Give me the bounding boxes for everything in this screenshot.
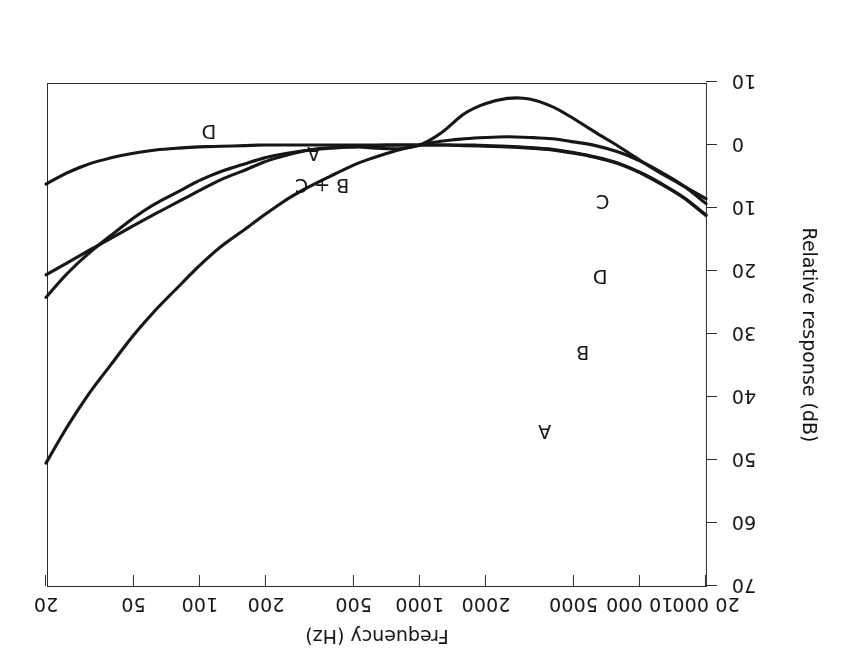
x-axis-title: Frequency (Hz)	[305, 626, 448, 648]
x-tick-label-100: 100	[181, 594, 218, 616]
x-tick-label-20000: 20 000	[672, 594, 740, 616]
curve-annotation-b-plus-c-4: B + C	[295, 175, 349, 197]
y-tick-label-40: 40	[732, 386, 756, 408]
x-tick-label-500: 500	[335, 594, 372, 616]
y-tick-label-0: 0	[732, 134, 744, 156]
curve-annotation-d-6: D	[202, 121, 217, 143]
y-tick--10	[706, 81, 717, 82]
y-tick-60	[706, 522, 717, 523]
x-tick-label-2000: 2000	[461, 594, 510, 616]
y-tick-50	[706, 459, 717, 460]
curve-annotation-b-1: B	[576, 342, 589, 364]
x-tick-label-20: 20	[34, 594, 59, 616]
y-tick-40	[706, 396, 717, 397]
y-tick-label-50: 50	[732, 449, 756, 471]
y-tick-label-30: 30	[732, 323, 756, 345]
x-tick-label-200: 200	[248, 594, 285, 616]
y-tick-0	[706, 144, 717, 145]
x-tick-label-50: 50	[121, 594, 146, 616]
y-axis-title: Relative response (dB)	[799, 228, 821, 443]
x-tick-label-10000: 10 000	[606, 594, 674, 616]
y-tick-label-70: 70	[732, 575, 756, 597]
y-tick-label--10: 10	[732, 71, 756, 93]
x-tick-label-1000: 1000	[395, 594, 444, 616]
y-tick-10	[706, 207, 717, 208]
plot-frame: Frequency (Hz) Relative response (dB) 20…	[47, 83, 707, 587]
y-tick-20	[706, 270, 717, 271]
curve-annotation-a-5: A	[307, 143, 320, 165]
curve-annotation-a-0: A	[538, 421, 551, 443]
x-tick-label-5000: 5000	[549, 594, 598, 616]
curve-annotation-c-3: C	[596, 191, 609, 213]
curve-a	[46, 137, 706, 463]
y-tick-label-60: 60	[732, 512, 756, 534]
y-tick-label-20: 20	[732, 260, 756, 282]
response-curves	[46, 82, 706, 586]
y-tick-30	[706, 333, 717, 334]
y-tick-label-10: 10	[732, 197, 756, 219]
y-tick-70	[706, 585, 717, 586]
curve-d	[46, 98, 706, 275]
curve-annotation-d-2: D	[593, 266, 608, 288]
